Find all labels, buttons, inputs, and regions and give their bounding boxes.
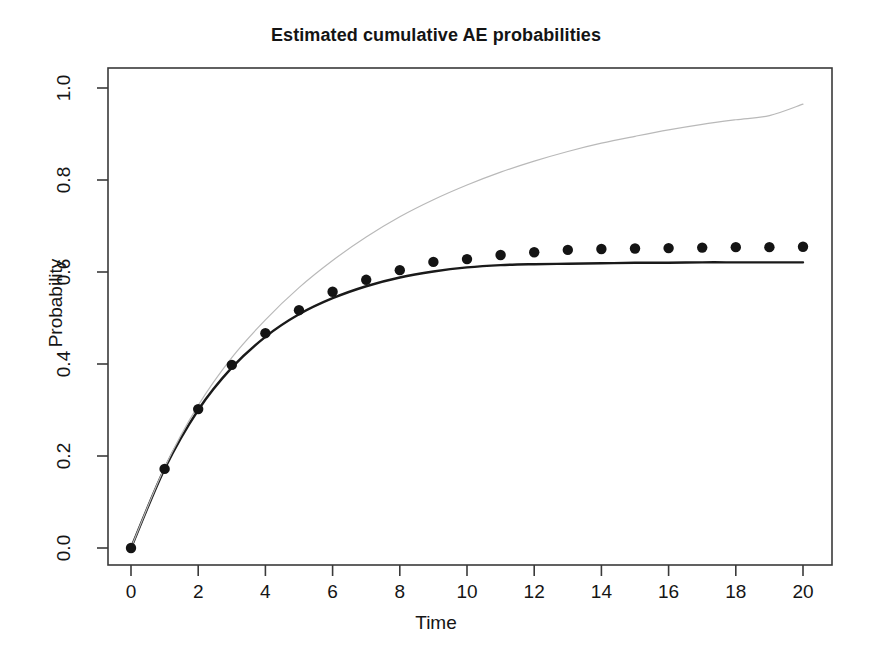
data-point-marker [663,243,673,253]
data-point-marker [260,328,270,338]
data-point-marker [428,257,438,267]
y-tick-label: 0.4 [53,342,75,386]
data-point-marker [159,464,169,474]
x-tick-label: 2 [168,581,228,603]
data-point-marker [798,242,808,252]
x-tick-label: 14 [571,581,631,603]
x-tick-label: 0 [101,581,161,603]
series-line [131,262,803,548]
x-tick-label: 6 [303,581,363,603]
data-point-marker [731,242,741,252]
data-point-marker [764,242,774,252]
data-point-marker [126,543,136,553]
data-point-marker [395,265,405,275]
data-point-marker [596,244,606,254]
data-point-marker [495,250,505,260]
x-tick-label: 8 [370,581,430,603]
axis-box [108,68,832,565]
data-point-marker [227,360,237,370]
x-tick-label: 20 [773,581,833,603]
data-point-marker [462,254,472,264]
y-tick-label: 0.0 [53,526,75,570]
data-point-marker [193,404,203,414]
y-tick-label: 0.2 [53,434,75,478]
x-axis-label: Time [0,612,872,634]
y-tick-label: 0.8 [53,158,75,202]
y-axis-ticks [97,88,108,548]
figure-canvas: Estimated cumulative AE probabilities Ti… [0,0,872,666]
x-tick-label: 4 [235,581,295,603]
plot-border [108,68,832,565]
data-point-marker [563,245,573,255]
x-tick-label: 18 [706,581,766,603]
x-tick-label: 10 [437,581,497,603]
data-point-marker [294,305,304,315]
x-tick-label: 16 [639,581,699,603]
y-tick-label: 0.6 [53,250,75,294]
data-point-marker [529,247,539,257]
data-point-marker [697,242,707,252]
plot-area [0,0,872,666]
x-tick-label: 12 [504,581,564,603]
data-point-marker [327,287,337,297]
data-point-marker [630,243,640,253]
series-lines [131,104,803,548]
series-points [126,242,808,554]
y-tick-label: 1.0 [53,66,75,110]
data-point-marker [361,275,371,285]
series-line [131,104,803,548]
x-axis-ticks [131,565,803,576]
